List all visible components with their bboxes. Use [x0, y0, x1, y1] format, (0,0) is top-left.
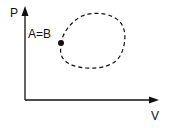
- x-axis-arrow-icon: [149, 97, 159, 104]
- y-axis-label: P: [10, 6, 18, 20]
- state-point-dot: [58, 40, 64, 46]
- pv-diagram: P V A=B: [0, 0, 172, 128]
- cycle-path: [61, 13, 125, 68]
- y-axis-arrow-icon: [22, 6, 29, 16]
- x-axis-label: V: [151, 109, 159, 123]
- state-point-label: A=B: [28, 27, 51, 41]
